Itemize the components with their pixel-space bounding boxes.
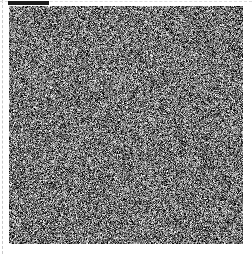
noise-panel [9,6,243,244]
marker-bar [8,1,49,5]
figure-root [0,0,252,254]
left-dashed-guide-line [2,0,3,254]
noise-canvas [9,6,243,244]
